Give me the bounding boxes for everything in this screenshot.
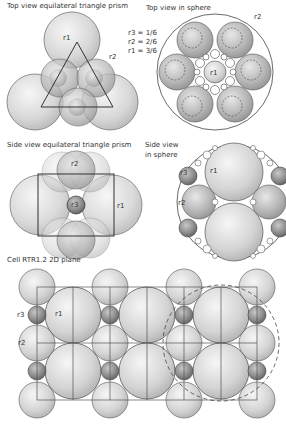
label-r1: r1 [63, 34, 70, 42]
title-side-triangle: Side view equilateral triangle prism [7, 141, 131, 150]
label-r3: r3 [17, 311, 24, 319]
diagram-canvas: r1 r2 r2 r1 r2 r3 r1 r3 r2 r1 r3 r1 r2 [0, 0, 286, 424]
label-r2: r2 [178, 199, 185, 207]
title-side-sphere-1: Side view [145, 141, 178, 150]
label-r2: r2 [18, 339, 25, 347]
label-r1: r1 [117, 202, 124, 210]
label-r1: r1 [55, 310, 62, 318]
legend-r1: r1 = 3/6 [128, 47, 157, 56]
legend-r3: r3 = 1/6 [128, 29, 157, 38]
legend-r2: r2 = 2/6 [128, 38, 157, 47]
label-r2: r2 [71, 160, 78, 168]
title-top-triangle: Top view equilateral triangle prism [7, 2, 128, 11]
title-side-sphere-2: in sphere [145, 151, 177, 160]
title-cell-plane: Cell RTR1.2 2D plane [7, 256, 81, 265]
label-r1: r1 [210, 167, 217, 175]
side-sphere-diagram [177, 143, 286, 261]
label-r2: r2 [254, 13, 261, 21]
top-triangle-diagram [7, 12, 138, 130]
label-r2: r2 [109, 53, 116, 61]
label-r3: r3 [180, 169, 187, 177]
label-r1: r1 [210, 69, 217, 77]
title-top-sphere: Top view in sphere [146, 4, 211, 13]
label-r3: r3 [71, 201, 78, 209]
cell-plane-diagram [19, 269, 279, 418]
